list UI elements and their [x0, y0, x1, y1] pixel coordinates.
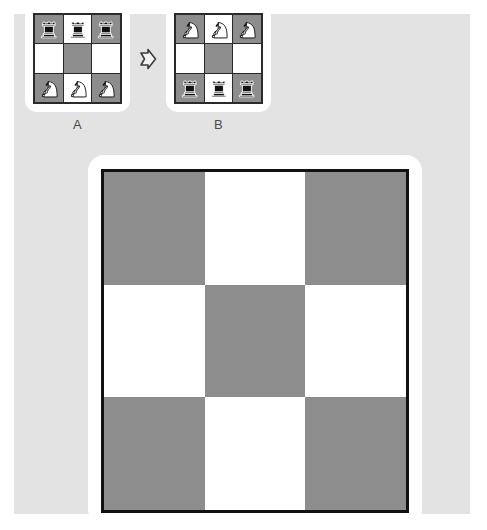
piece-white-knight [235, 17, 259, 41]
answer-square-r2c2[interactable] [305, 397, 406, 510]
board-b-square-r0c0 [176, 15, 204, 43]
board-a-square-r2c2 [92, 74, 120, 102]
piece-black-rook [207, 76, 231, 100]
board-a-square-r1c1 [64, 44, 92, 72]
piece-white-knight [94, 76, 118, 100]
answer-square-r0c2[interactable] [305, 172, 406, 285]
piece-white-knight [66, 76, 90, 100]
board-b-square-r1c1 [205, 44, 233, 72]
example-transformation-row: A [0, 0, 487, 140]
piece-black-rook [94, 17, 118, 41]
board-b-square-r2c2 [233, 74, 261, 102]
board-a-square-r2c0 [35, 74, 63, 102]
example-board-a [33, 13, 122, 104]
board-a-square-r2c1 [64, 74, 92, 102]
answer-square-r2c1[interactable] [205, 397, 306, 510]
answer-square-r2c0[interactable] [104, 397, 205, 510]
answer-board[interactable] [101, 169, 409, 513]
example-board-b-label: B [166, 117, 271, 132]
piece-black-rook [178, 76, 202, 100]
example-board-b [174, 13, 263, 104]
answer-square-r0c0[interactable] [104, 172, 205, 285]
example-board-a-card [25, 5, 130, 112]
arrow-right-icon [132, 44, 162, 74]
board-b-square-r1c2 [233, 44, 261, 72]
board-a-square-r0c1 [64, 15, 92, 43]
board-b-square-r0c2 [233, 15, 261, 43]
answer-square-r1c2[interactable] [305, 285, 406, 398]
piece-black-rook [235, 76, 259, 100]
answer-square-r0c1[interactable] [205, 172, 306, 285]
board-b-square-r1c0 [176, 44, 204, 72]
piece-white-knight [207, 17, 231, 41]
example-board-b-card [166, 5, 271, 112]
answer-square-r1c0[interactable] [104, 285, 205, 398]
board-a-square-r1c0 [35, 44, 63, 72]
piece-white-knight [178, 17, 202, 41]
piece-white-knight [37, 76, 61, 100]
board-b-square-r2c0 [176, 74, 204, 102]
board-a-square-r1c2 [92, 44, 120, 72]
board-a-square-r0c0 [35, 15, 63, 43]
board-b-square-r2c1 [205, 74, 233, 102]
board-b-square-r0c1 [205, 15, 233, 43]
piece-black-rook [66, 17, 90, 41]
answer-square-r1c1[interactable] [205, 285, 306, 398]
example-board-a-label: A [25, 117, 130, 132]
piece-black-rook [37, 17, 61, 41]
board-a-square-r0c2 [92, 15, 120, 43]
